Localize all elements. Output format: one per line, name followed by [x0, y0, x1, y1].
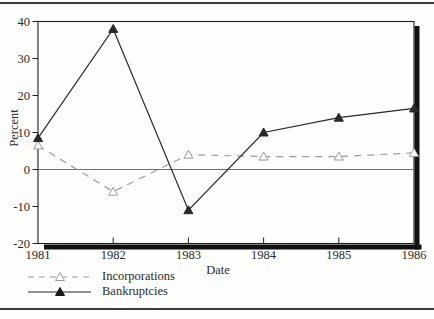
x-axis-tick-label: 1981 — [26, 248, 51, 262]
plot-frame — [38, 22, 414, 244]
series-marker-incorporations — [34, 141, 43, 149]
x-axis-title: Date — [206, 263, 230, 278]
series-marker-bankruptcies — [109, 24, 118, 32]
x-axis-tick-label: 1986 — [402, 248, 427, 262]
frame-shadow-right — [415, 26, 420, 250]
x-axis-tick-label: 1982 — [101, 248, 126, 262]
y-axis-tick-label: 30 — [18, 52, 31, 66]
legend-item-incorporations: Incorporations — [27, 269, 175, 284]
series-line-bankruptcies — [38, 29, 414, 210]
y-axis-tick-label: 0 — [24, 163, 30, 177]
series-marker-bankruptcies — [34, 134, 43, 142]
figure: 403020100-10-20198119821983198419851986 … — [0, 0, 434, 319]
x-axis-tick-label: 1985 — [326, 248, 351, 262]
legend-label-bankruptcies: Bankruptcies — [102, 285, 168, 298]
y-axis-title: Percent — [7, 109, 22, 146]
legend-item-bankruptcies: Bankruptcies — [27, 284, 175, 299]
series-line-incorporations — [38, 145, 414, 191]
y-axis-tick-label: 20 — [18, 89, 31, 103]
bankruptcies-swatch-icon — [27, 286, 93, 298]
legend-label-incorporations: Incorporations — [102, 270, 175, 283]
legend: Incorporations Bankruptcies — [27, 269, 175, 299]
y-axis-tick-label: -10 — [13, 200, 30, 214]
y-axis-tick-label: 40 — [18, 15, 31, 29]
x-axis-tick-label: 1984 — [251, 248, 277, 262]
bottom-rule — [0, 308, 434, 310]
x-axis-tick-label: 1983 — [176, 248, 201, 262]
series-marker-incorporations — [109, 187, 118, 195]
incorporations-swatch-icon — [27, 271, 93, 283]
